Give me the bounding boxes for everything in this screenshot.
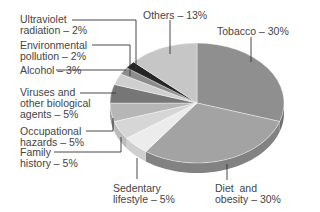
label-sedentary: Sedentary lifestyle – 5%	[113, 183, 175, 205]
label-family: Family history – 5%	[20, 147, 78, 169]
label-alcohol: Alcohol – 3%	[20, 65, 81, 76]
label-viruses: Viruses and other biological agents – 5%	[20, 87, 91, 120]
label-occupational: Occupational hazards – 5%	[20, 126, 84, 148]
label-tobacco: Tobacco – 30%	[217, 26, 289, 37]
label-uv: Ultraviolet radiation – 2%	[20, 14, 87, 36]
label-diet: Diet and obesity – 30%	[215, 183, 281, 205]
label-environmental: Environmental pollution – 2%	[20, 40, 87, 62]
label-others: Others – 13%	[143, 10, 207, 21]
